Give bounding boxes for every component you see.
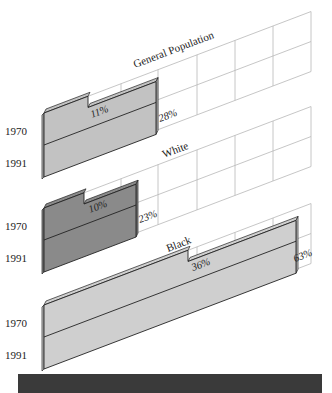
bar-front-face: [44, 184, 136, 272]
year-label-1991: 1991: [5, 349, 27, 361]
bar-front-face: [44, 82, 156, 177]
chart-panels: [42, 12, 311, 371]
value-label-1991: 23%: [137, 208, 159, 225]
footer-bar: [18, 374, 322, 393]
value-label-1991: 28%: [157, 107, 179, 124]
year-label-1970: 1970: [5, 220, 28, 232]
year-label-1991: 1991: [5, 157, 27, 169]
year-label-1970: 1970: [5, 125, 28, 137]
year-label-1991: 1991: [5, 252, 27, 264]
panel-title-white: White: [160, 139, 189, 160]
year-label-1970: 1970: [5, 317, 28, 329]
chart-canvas: General Population 1970 1991 11% 28% Whi…: [0, 0, 332, 393]
